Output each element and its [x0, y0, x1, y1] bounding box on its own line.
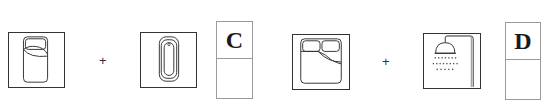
answer-slot-d[interactable]	[506, 59, 540, 99]
double-bed-icon	[293, 35, 349, 89]
bathtub-icon-box	[140, 32, 197, 88]
plus-operator: +	[99, 54, 107, 67]
answer-slot-c[interactable]	[217, 58, 252, 98]
shower-icon-box	[423, 33, 481, 89]
double-bed-icon-box	[292, 34, 350, 90]
plus-operator: +	[382, 55, 390, 68]
bathtub-icon	[141, 33, 196, 87]
single-bed-icon-box	[8, 32, 65, 88]
answer-label-d: D	[506, 23, 540, 60]
shower-icon	[424, 34, 480, 88]
answer-box-d: D	[505, 22, 541, 100]
answer-label-c: C	[217, 22, 252, 59]
single-bed-icon	[9, 33, 64, 87]
answer-box-c: C	[216, 21, 253, 99]
